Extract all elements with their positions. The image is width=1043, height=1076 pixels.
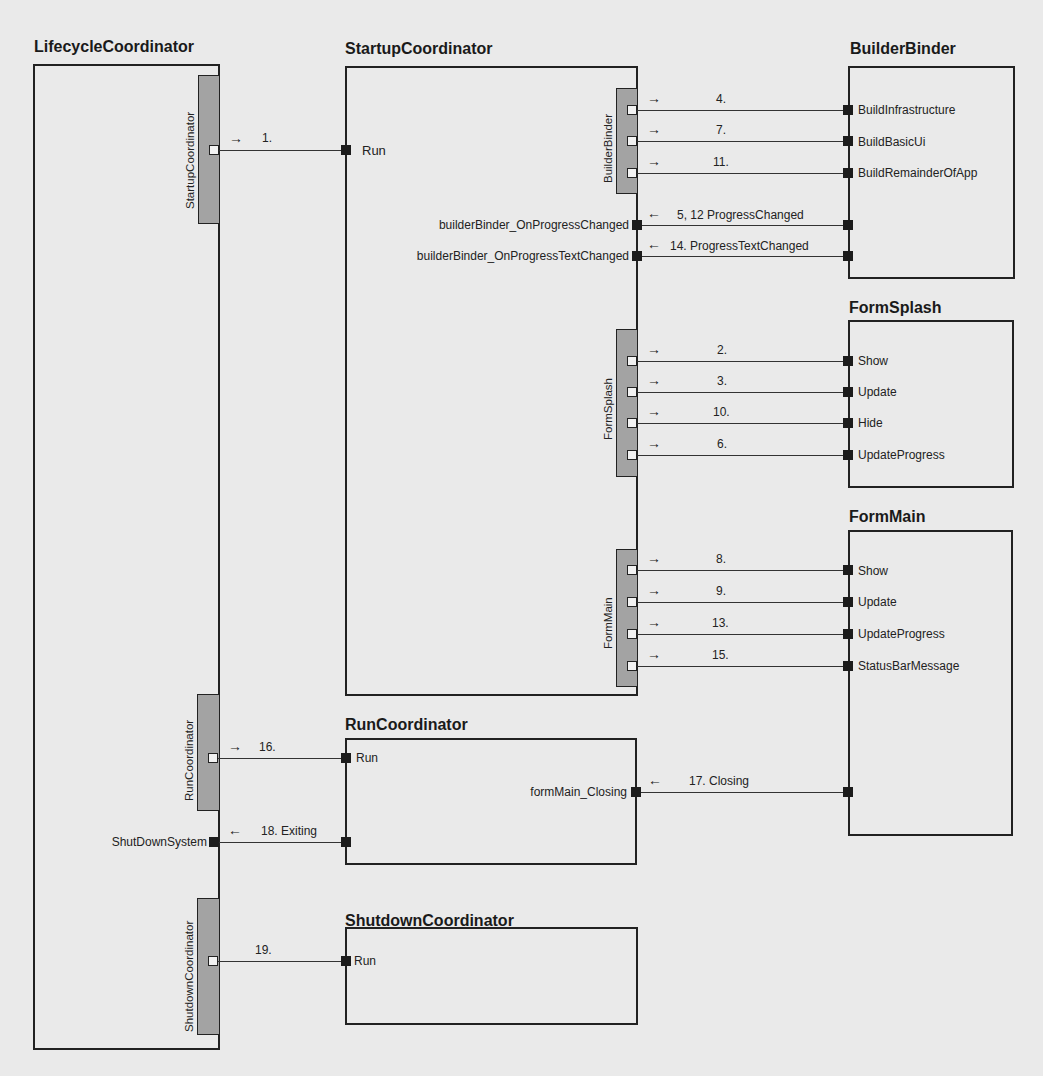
message-label-7: 7. <box>716 123 726 137</box>
message-label-19: 19. <box>255 943 272 957</box>
out-port-main-status-bar[interactable] <box>627 661 637 671</box>
run-coordinator-ref-label: RunCoordinator <box>183 720 195 801</box>
connector-7 <box>637 141 849 142</box>
run-coordinator-box <box>345 738 637 865</box>
connector-8 <box>637 570 849 571</box>
message-label-3: 3. <box>717 374 727 388</box>
connector-2 <box>637 361 849 362</box>
event-port-exiting[interactable] <box>341 837 351 847</box>
method-label-build-infrastructure: BuildInfrastructure <box>858 103 955 117</box>
connector-11 <box>637 173 849 174</box>
arrow-right-icon: → <box>647 342 661 356</box>
builder-binder-ref-label: BuilderBinder <box>602 114 614 183</box>
message-label-progress-text-changed: 14. ProgressTextChanged <box>670 239 809 253</box>
startup-coordinator-ref-label: StartupCoordinator <box>184 112 196 209</box>
in-port-main-status-bar[interactable] <box>843 661 853 671</box>
method-label-shutdown-run: Run <box>354 954 376 968</box>
run-coordinator-title: RunCoordinator <box>345 716 468 734</box>
in-port-splash-update-progress[interactable] <box>843 450 853 460</box>
in-port-splash-update[interactable] <box>843 387 853 397</box>
form-splash-title: FormSplash <box>849 299 941 317</box>
connector-3 <box>637 392 849 393</box>
in-port-shutdown-run[interactable] <box>341 956 351 966</box>
in-port-startup-run[interactable] <box>341 145 351 155</box>
in-port-build-infrastructure[interactable] <box>843 105 853 115</box>
method-label-splash-show: Show <box>858 354 888 368</box>
shutdown-coordinator-ref-label: ShutdownCoordinator <box>183 921 195 1032</box>
startup-coordinator-box <box>345 66 638 696</box>
out-port-splash-update[interactable] <box>627 387 637 397</box>
connector-6 <box>637 455 849 456</box>
in-port-main-update-progress[interactable] <box>843 629 853 639</box>
handler-port-progress-text-changed[interactable] <box>632 251 642 261</box>
message-label-10: 10. <box>713 405 730 419</box>
out-port-splash-show[interactable] <box>627 356 637 366</box>
out-port-startup[interactable] <box>209 145 219 155</box>
method-label-splash-hide: Hide <box>858 416 883 430</box>
arrow-right-icon: → <box>647 647 661 661</box>
handler-label-shut-down-system: ShutDownSystem <box>112 835 207 849</box>
message-label-16: 16. <box>259 740 276 754</box>
arrow-right-icon: → <box>647 373 661 387</box>
in-port-main-show[interactable] <box>843 565 853 575</box>
arrow-right-icon: → <box>647 551 661 565</box>
shutdown-coordinator-box <box>345 927 638 1025</box>
out-port-shutdown[interactable] <box>208 956 218 966</box>
connector-5-12 <box>637 225 849 226</box>
connector-4 <box>637 110 849 111</box>
arrow-left-icon: ← <box>647 237 661 251</box>
message-label-18: 18. Exiting <box>261 824 317 838</box>
arrow-right-icon: → <box>228 739 242 753</box>
handler-port-form-main-closing[interactable] <box>631 787 641 797</box>
out-port-run[interactable] <box>208 753 218 763</box>
method-label-splash-update-progress: UpdateProgress <box>858 448 945 462</box>
out-port-splash-update-progress[interactable] <box>627 450 637 460</box>
method-label-run-run: Run <box>356 751 378 765</box>
form-splash-box <box>848 320 1014 488</box>
out-port-main-update[interactable] <box>627 597 637 607</box>
method-label-main-show: Show <box>858 564 888 578</box>
out-port-build-infrastructure[interactable] <box>627 105 637 115</box>
arrow-right-icon: → <box>647 404 661 418</box>
in-port-run-run[interactable] <box>341 753 351 763</box>
message-label-15: 15. <box>712 648 729 662</box>
event-port-progress-changed[interactable] <box>843 220 853 230</box>
arrow-right-icon: → <box>647 583 661 597</box>
message-label-1: 1. <box>262 131 272 145</box>
handler-label-progress-text-changed: builderBinder_OnProgressTextChanged <box>417 249 629 263</box>
message-label-2: 2. <box>717 343 727 357</box>
shutdown-coordinator-ref-bar <box>197 898 220 1035</box>
method-label-build-basic-ui: BuildBasicUi <box>858 135 925 149</box>
method-label-main-status-bar: StatusBarMessage <box>858 659 959 673</box>
arrow-right-icon: → <box>647 615 661 629</box>
method-label-main-update-progress: UpdateProgress <box>858 627 945 641</box>
in-port-main-update[interactable] <box>843 597 853 607</box>
out-port-main-update-progress[interactable] <box>627 629 637 639</box>
connector-14 <box>637 256 849 257</box>
message-label-9: 9. <box>716 584 726 598</box>
connector-9 <box>637 602 849 603</box>
handler-port-shut-down-system[interactable] <box>209 837 219 847</box>
event-port-closing[interactable] <box>843 787 853 797</box>
handler-label-form-main-closing: formMain_Closing <box>530 785 627 799</box>
in-port-splash-show[interactable] <box>843 356 853 366</box>
out-port-splash-hide[interactable] <box>627 418 637 428</box>
connector-1 <box>218 150 346 151</box>
arrow-left-icon: ← <box>647 206 661 220</box>
out-port-main-show[interactable] <box>627 565 637 575</box>
method-label-splash-update: Update <box>858 385 897 399</box>
handler-port-progress-changed[interactable] <box>632 220 642 230</box>
form-main-ref-label: FormMain <box>602 597 614 649</box>
in-port-splash-hide[interactable] <box>843 418 853 428</box>
out-port-build-remainder[interactable] <box>627 168 637 178</box>
in-port-build-basic-ui[interactable] <box>843 136 853 146</box>
message-label-4: 4. <box>716 92 726 106</box>
connector-10 <box>637 423 849 424</box>
startup-coordinator-title: StartupCoordinator <box>345 40 493 58</box>
arrow-right-icon: → <box>229 131 243 145</box>
event-port-progress-text-changed[interactable] <box>843 251 853 261</box>
in-port-build-remainder[interactable] <box>843 168 853 178</box>
message-label-13: 13. <box>712 616 729 630</box>
out-port-build-basic-ui[interactable] <box>627 136 637 146</box>
message-label-progress-changed: 5, 12 ProgressChanged <box>677 208 804 222</box>
